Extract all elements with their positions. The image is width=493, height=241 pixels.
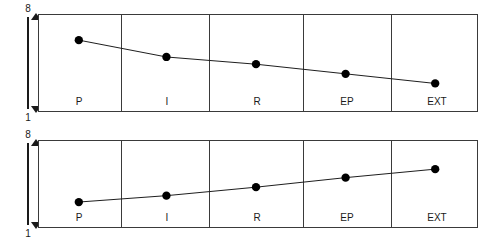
- data-point-marker: [341, 70, 349, 78]
- data-point-marker: [431, 165, 439, 173]
- data-point-marker: [162, 192, 170, 200]
- plot-area-bottom: P I R EP EXT: [38, 140, 478, 228]
- chart-panel-top: 8 1 P I R EP EXT: [0, 0, 493, 120]
- data-point-marker: [252, 60, 260, 68]
- data-point-marker: [341, 174, 349, 182]
- data-point-marker: [75, 36, 83, 44]
- data-point-marker: [431, 79, 439, 87]
- data-point-marker: [75, 198, 83, 206]
- plot-area-top: P I R EP EXT: [38, 14, 478, 112]
- data-point-marker: [162, 53, 170, 61]
- chart-panel-bottom: 8 1 P I R EP EXT: [0, 120, 493, 241]
- y-axis-min-label-bottom: 1: [18, 229, 38, 239]
- data-point-marker: [252, 183, 260, 191]
- series-line-bottom: [39, 141, 477, 227]
- double-arrow-icon: [27, 17, 29, 109]
- double-arrow-icon: [27, 143, 29, 225]
- figure-canvas: 8 1 P I R EP EXT 8: [0, 0, 493, 241]
- series-line-top: [39, 15, 477, 111]
